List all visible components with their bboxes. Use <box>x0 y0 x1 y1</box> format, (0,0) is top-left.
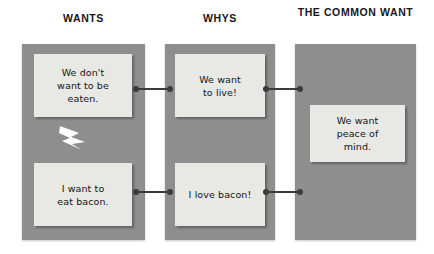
card-whys-we-want-to-live[interactable]: We want to live! <box>175 54 265 117</box>
card-text: I love bacon! <box>189 188 252 201</box>
connector-whys-to-common-top <box>263 84 303 93</box>
connector-dot-right <box>167 86 173 92</box>
diagram-canvas: WANTS WHYS THE COMMON WANT We don't want… <box>0 0 434 254</box>
connector-line <box>136 88 170 90</box>
card-wants-i-want-to-eat-bacon[interactable]: I want to eat bacon. <box>34 163 132 226</box>
column-header-whys: WHYS <box>165 12 275 25</box>
connector-wants-to-whys-bottom <box>133 187 173 196</box>
card-text: We want peace of mind. <box>337 114 379 153</box>
card-common-want-we-want-peace-of-mind[interactable]: We want peace of mind. <box>310 105 405 162</box>
connector-wants-to-whys-top <box>133 84 173 93</box>
connector-dot-right <box>297 86 303 92</box>
card-text: We don't want to be eaten. <box>57 66 109 105</box>
connector-line <box>266 191 300 193</box>
column-header-the-common-want: THE COMMON WANT <box>295 6 416 19</box>
card-whys-i-love-bacon[interactable]: I love bacon! <box>175 163 265 226</box>
connector-line <box>136 191 170 193</box>
card-text: I want to eat bacon. <box>57 182 108 208</box>
connector-whys-to-common-bottom <box>263 187 303 196</box>
lightning-bolt-icon <box>58 124 92 160</box>
connector-dot-right <box>297 189 303 195</box>
column-header-wants: WANTS <box>22 12 145 25</box>
card-wants-we-dont-want-to-be-eaten[interactable]: We don't want to be eaten. <box>34 54 132 117</box>
card-text: We want to live! <box>199 73 241 99</box>
connector-dot-right <box>167 189 173 195</box>
connector-line <box>266 88 300 90</box>
